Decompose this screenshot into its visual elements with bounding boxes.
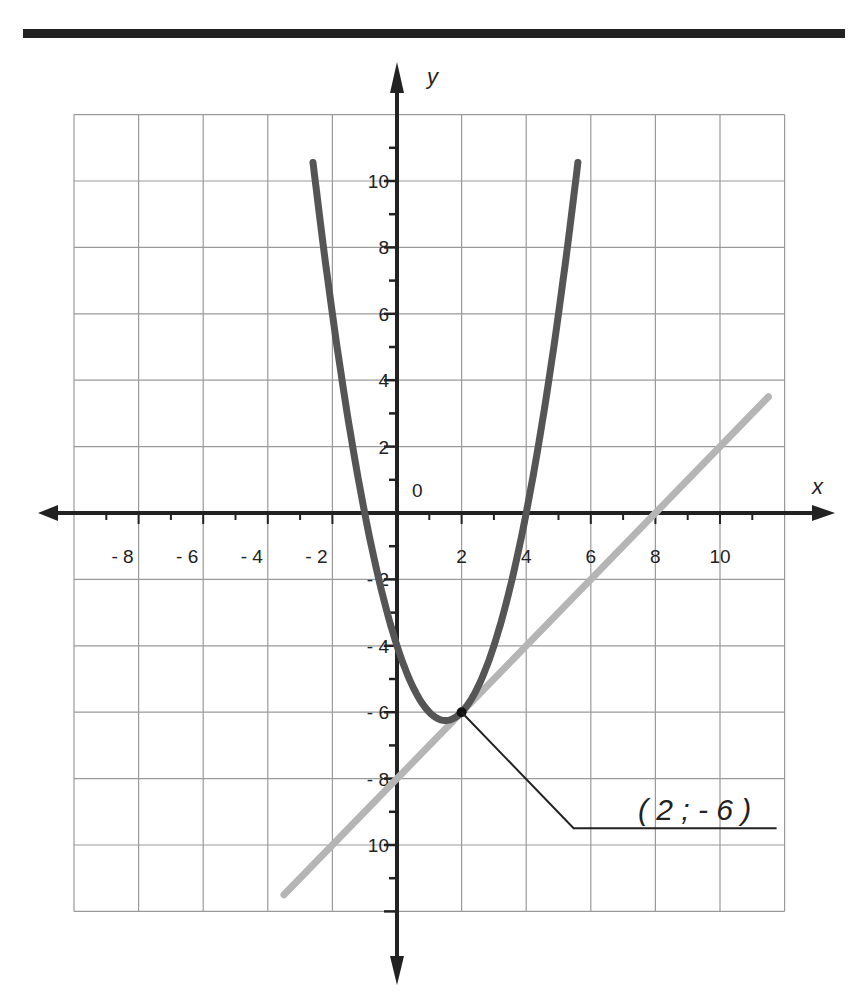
y-tick-label: 2 bbox=[378, 437, 389, 458]
y-tick-label: - 6 bbox=[367, 702, 389, 723]
x-tick-label: - 6 bbox=[176, 546, 198, 567]
x-axis-label: x bbox=[811, 474, 824, 499]
axes bbox=[38, 62, 835, 985]
y-axis-label: y bbox=[425, 64, 440, 89]
x-tick-label: - 4 bbox=[241, 546, 264, 567]
x-tick-label: 4 bbox=[521, 546, 532, 567]
y-tick-label: 4 bbox=[378, 370, 389, 391]
y-tick-label: 6 bbox=[378, 304, 389, 325]
coordinate-plot: - 8- 6- 4- 2246810108642- 2- 4- 6- 810 (… bbox=[0, 0, 865, 995]
x-tick-label: - 2 bbox=[305, 546, 327, 567]
x-tick-label: 2 bbox=[456, 546, 467, 567]
y-tick-label: 10 bbox=[368, 835, 389, 856]
origin-label: 0 bbox=[412, 480, 423, 501]
tangent-point-label: ( 2 ; - 6 ) bbox=[638, 793, 751, 826]
x-tick-label: - 8 bbox=[112, 546, 134, 567]
x-tick-label: 10 bbox=[709, 546, 730, 567]
y-tick-label: 10 bbox=[368, 171, 389, 192]
y-tick-label: 8 bbox=[378, 237, 389, 258]
y-tick-label: - 4 bbox=[367, 636, 390, 657]
x-tick-label: 8 bbox=[650, 546, 661, 567]
x-tick-label: 6 bbox=[586, 546, 597, 567]
